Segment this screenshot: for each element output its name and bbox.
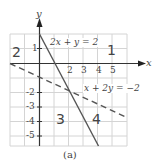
y-tick-1: 1 [32, 44, 38, 53]
graph-figure: y x 2 3 4 5 1 -2 -3 -4 -5 2x + y = 2 x +… [0, 0, 156, 167]
x-tick-3: 3 [81, 66, 87, 75]
region-1-label: 1 [107, 43, 116, 57]
y-axis-arrow-icon [37, 18, 43, 27]
x-tick-5: 5 [110, 66, 116, 75]
y-tick-neg5: -5 [26, 131, 35, 140]
x-tick-2: 2 [67, 66, 73, 75]
region-2-label: 2 [12, 45, 21, 59]
y-axis-label: y [36, 9, 42, 18]
region-4-label: 4 [92, 112, 101, 126]
x-axis-label: x [146, 58, 152, 67]
y-tick-neg2: -2 [26, 88, 35, 97]
solid-line-equation: 2x + y = 2 [49, 38, 99, 47]
figure-caption: (a) [63, 150, 77, 159]
x-axis-arrow-icon [138, 61, 146, 67]
y-tick-neg3: -3 [26, 102, 35, 111]
y-tick-neg4: -4 [26, 117, 35, 126]
dashed-line-equation: x + 2y = −2 [83, 84, 141, 93]
x-tick-4: 4 [96, 66, 102, 75]
region-3-label: 3 [56, 112, 65, 126]
